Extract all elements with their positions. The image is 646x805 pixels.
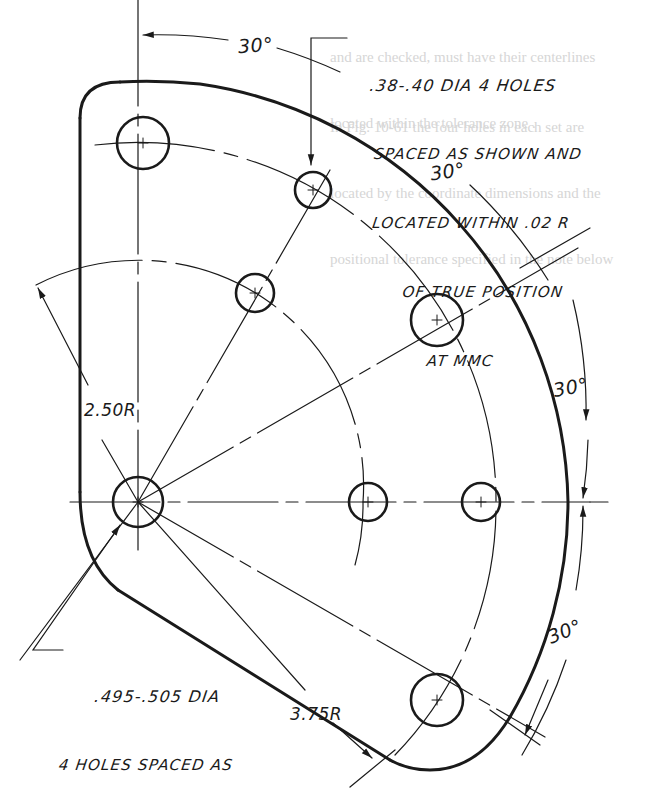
- radius-label-outer: 3.75R: [290, 704, 342, 724]
- radius-375-line: [333, 723, 372, 758]
- radius-label-inner: 2.50R: [84, 400, 136, 420]
- angle-label-top: 30°: [237, 33, 274, 57]
- note-line: .38-.40 DIA 4 HOLES: [368, 74, 594, 97]
- leader-small-holes: [33, 525, 120, 650]
- radius-outer-ext: [525, 680, 548, 735]
- note-line: 4 HOLES SPACED AS: [57, 754, 264, 777]
- note-line: SPACED AS SHOWN AND: [358, 143, 584, 166]
- note-line: AT MMC: [329, 350, 555, 373]
- note-line: OF TRUE POSITION: [339, 281, 565, 304]
- note-line: LOCATED WITHIN .02 R: [349, 212, 575, 235]
- note-line: .495-.505 DIA: [67, 685, 274, 708]
- radius-375-ext: [350, 750, 395, 787]
- leader-large-holes: [311, 38, 347, 165]
